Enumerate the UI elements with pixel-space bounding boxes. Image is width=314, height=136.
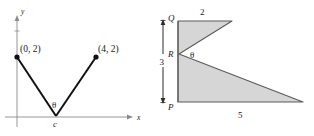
dim-left-label: 3 bbox=[160, 57, 165, 67]
figure-container: y x (0, 2) (4, 2) θ c bbox=[0, 0, 314, 136]
point-left-dot bbox=[14, 54, 19, 59]
x-axis-label: x bbox=[136, 113, 141, 122]
point-right-dot bbox=[93, 54, 98, 59]
dim-left-arrow-top-icon bbox=[161, 19, 166, 25]
v-right-segment bbox=[56, 57, 96, 116]
dim-top-label: 2 bbox=[200, 7, 205, 17]
y-axis-label: y bbox=[20, 7, 25, 16]
dim-left-arrow-bottom-icon bbox=[161, 98, 166, 104]
dim-bottom-label: 5 bbox=[238, 110, 243, 120]
point-left-label: (0, 2) bbox=[20, 44, 41, 55]
geometry-figure-svg: y x (0, 2) (4, 2) θ c bbox=[0, 0, 314, 136]
vertex-q-label: Q bbox=[168, 13, 175, 23]
left-diagram-group: y x (0, 2) (4, 2) θ c bbox=[5, 7, 141, 129]
vertex-c-label: c bbox=[53, 119, 57, 129]
y-axis-arrow-icon bbox=[15, 15, 20, 21]
vertex-r-label: R bbox=[167, 49, 174, 59]
left-angle-theta-label: θ bbox=[52, 100, 56, 110]
point-right-label: (4, 2) bbox=[98, 44, 119, 55]
vertex-p-label: P bbox=[167, 102, 174, 112]
v-left-segment bbox=[17, 57, 56, 116]
x-axis-arrow-icon bbox=[127, 115, 133, 120]
right-angle-theta-label: θ bbox=[190, 50, 194, 60]
shaded-polygon bbox=[178, 21, 303, 102]
right-diagram-group: 3 2 5 Q R P θ bbox=[159, 7, 304, 120]
